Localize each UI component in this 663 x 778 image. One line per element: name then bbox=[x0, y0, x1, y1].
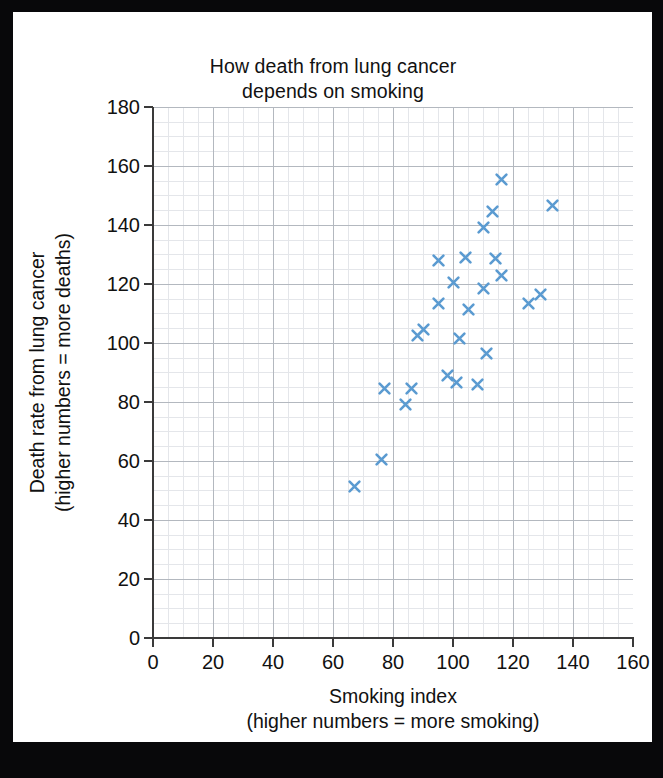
figure-page: How death from lung cancer depends on sm… bbox=[13, 12, 652, 742]
x-tick-label: 60 bbox=[322, 651, 344, 674]
x-axis-label-line-2: (higher numbers = more smoking) bbox=[153, 709, 633, 734]
y-axis-label-line-2: (higher numbers = more deaths) bbox=[52, 233, 76, 512]
x-tick-label: 140 bbox=[556, 651, 589, 674]
image-frame: How death from lung cancer depends on sm… bbox=[0, 0, 663, 778]
x-tick-mark bbox=[572, 638, 574, 647]
y-tick-mark bbox=[144, 460, 153, 462]
y-tick-mark bbox=[144, 578, 153, 580]
y-tick-label: 80 bbox=[118, 391, 140, 414]
plot-area: 020406080100120140160180 020406080100120… bbox=[153, 107, 633, 638]
y-tick-mark bbox=[144, 519, 153, 521]
x-tick-mark bbox=[212, 638, 214, 647]
y-tick-mark bbox=[144, 342, 153, 344]
x-tick-mark bbox=[632, 638, 634, 647]
y-axis-line bbox=[152, 107, 154, 638]
chart-title-line-1: How death from lung cancer bbox=[93, 54, 573, 79]
x-tick-mark bbox=[512, 638, 514, 647]
x-tick-mark bbox=[392, 638, 394, 647]
scatter-chart-figure: How death from lung cancer depends on sm… bbox=[13, 12, 652, 742]
x-tick-label: 80 bbox=[382, 651, 404, 674]
y-tick-mark bbox=[144, 224, 153, 226]
x-tick-label: 100 bbox=[436, 651, 469, 674]
y-tick-label: 60 bbox=[118, 450, 140, 473]
x-tick-mark bbox=[272, 638, 274, 647]
y-axis-label-line-1: Death rate from lung cancer bbox=[26, 252, 50, 494]
x-axis-label: Smoking index (higher numbers = more smo… bbox=[153, 684, 633, 735]
x-tick-mark bbox=[452, 638, 454, 647]
y-tick-label: 40 bbox=[118, 509, 140, 532]
x-tick-label: 160 bbox=[616, 651, 649, 674]
x-tick-label: 0 bbox=[147, 651, 158, 674]
y-tick-label: 140 bbox=[107, 214, 140, 237]
y-tick-label: 0 bbox=[129, 627, 140, 650]
y-tick-label: 180 bbox=[107, 96, 140, 119]
y-tick-label: 20 bbox=[118, 568, 140, 591]
x-tick-mark bbox=[152, 638, 154, 647]
x-tick-label: 20 bbox=[202, 651, 224, 674]
x-tick-label: 120 bbox=[496, 651, 529, 674]
x-axis-label-line-1: Smoking index bbox=[153, 684, 633, 709]
x-tick-mark bbox=[332, 638, 334, 647]
chart-title-line-2: depends on smoking bbox=[93, 79, 573, 104]
y-tick-label: 100 bbox=[107, 332, 140, 355]
y-tick-label: 160 bbox=[107, 155, 140, 178]
y-tick-mark bbox=[144, 106, 153, 108]
y-tick-label: 120 bbox=[107, 273, 140, 296]
y-tick-mark bbox=[144, 283, 153, 285]
chart-title: How death from lung cancer depends on sm… bbox=[93, 54, 573, 104]
grid-major bbox=[153, 107, 633, 638]
y-tick-mark bbox=[144, 401, 153, 403]
y-tick-mark bbox=[144, 165, 153, 167]
x-tick-label: 40 bbox=[262, 651, 284, 674]
y-axis-label: Death rate from lung cancer (higher numb… bbox=[23, 107, 79, 638]
